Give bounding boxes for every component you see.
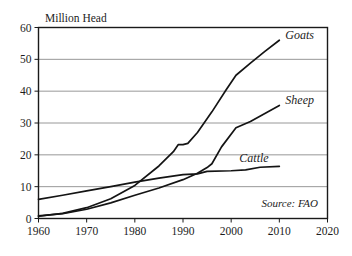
- x-tick-label-1960: 1960: [27, 225, 50, 237]
- y-tick-label-10: 10: [20, 181, 32, 193]
- y-tick-label-40: 40: [20, 85, 32, 97]
- x-tick-label-1980: 1980: [123, 225, 146, 237]
- x-tick-label-2020: 2020: [316, 225, 339, 237]
- series-label-sheep: Sheep: [285, 93, 314, 107]
- x-tick-label-2010: 2010: [268, 225, 291, 237]
- series-label-goats: Goats: [285, 28, 314, 42]
- livestock-line-chart: 0102030405060 19601970198019902000201020…: [0, 0, 352, 256]
- y-tick-label-0: 0: [26, 213, 32, 225]
- x-tick-label-1990: 1990: [172, 225, 195, 237]
- source-note: Source: FAO: [261, 197, 318, 209]
- y-tick-label-20: 20: [20, 149, 32, 161]
- x-tick-label-1970: 1970: [75, 225, 98, 237]
- y-tick-label-60: 60: [20, 22, 32, 34]
- x-tick-label-2000: 2000: [220, 225, 243, 237]
- y-tick-label-50: 50: [20, 53, 32, 65]
- y-axis-title: Million Head: [45, 12, 107, 24]
- series-label-cattle: Cattle: [239, 151, 269, 165]
- chart-container: 0102030405060 19601970198019902000201020…: [0, 0, 352, 256]
- y-tick-label-30: 30: [20, 117, 32, 129]
